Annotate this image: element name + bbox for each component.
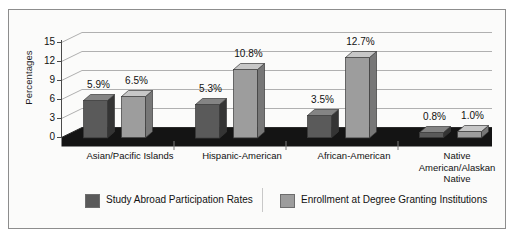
chart-frame: Percentages 15 12 9 6 3 0 5.9%6.5%5.3%10…: [8, 9, 506, 229]
bar-value-label: 5.3%: [187, 83, 234, 94]
bar-native-american-alaskan-native-series-1: [419, 126, 452, 139]
y-tick-15: 15: [37, 38, 55, 46]
bar-asian-pacific-islands-series-2: [121, 90, 154, 139]
y-tick-6: 6: [37, 95, 55, 103]
plot-area: Percentages 15 12 9 6 3 0 5.9%6.5%5.3%10…: [9, 10, 507, 188]
bar-african-american-series-1: [307, 109, 340, 139]
legend-swatch-icon: [280, 194, 295, 208]
bar-asian-pacific-islands-series-1: [83, 94, 116, 139]
bar-value-label: 1.0%: [449, 110, 496, 121]
x-category-african-american: African-American: [295, 150, 413, 162]
x-category-line: African-American: [295, 150, 413, 162]
legend-label: Study Abroad Participation Rates: [106, 194, 253, 206]
y-axis-title: Percentages: [23, 23, 34, 133]
x-category-asian-pacific-islands: Asian/Pacific Islands: [71, 150, 189, 162]
bar-value-label: 3.5%: [299, 94, 346, 105]
bar-value-label: 10.8%: [225, 48, 272, 59]
x-category-line: Native: [407, 173, 507, 185]
legend-divider: [262, 188, 263, 212]
bar-native-american-alaskan-native-series-2: [457, 125, 490, 139]
x-category-line: Asian/Pacific Islands: [71, 150, 189, 162]
bar-african-american-series-2: [345, 51, 378, 139]
bar-hispanic-american-series-1: [195, 98, 228, 140]
x-category-line: Native: [407, 150, 507, 162]
bar-value-label: 6.5%: [113, 75, 160, 86]
bar-value-label: 12.7%: [337, 36, 384, 47]
legend-swatch-icon: [85, 194, 100, 208]
legend-label: Enrollment at Degree Granting Institutio…: [301, 194, 487, 206]
chart-legend: Study Abroad Participation Rates Enrollm…: [9, 192, 507, 222]
x-category-line: Hispanic-American: [183, 150, 301, 162]
y-tick-3: 3: [37, 114, 55, 122]
y-tick-9: 9: [37, 76, 55, 84]
y-tick-12: 12: [37, 57, 55, 65]
bar-hispanic-american-series-2: [233, 63, 266, 139]
x-category-hispanic-american: Hispanic-American: [183, 150, 301, 162]
x-category-line: American/Alaskan: [407, 162, 507, 174]
y-tick-0: 0: [37, 133, 55, 141]
x-category-native-american-alaskan-native: Native American/Alaskan Native: [407, 150, 507, 185]
y-axis-tick-labels: 15 12 9 6 3 0: [33, 10, 55, 188]
